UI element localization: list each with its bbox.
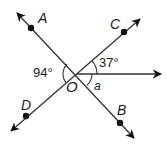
arc-angle-a [87, 74, 92, 85]
point-label-a: A [38, 11, 47, 25]
point-label-d: D [21, 98, 31, 112]
point-b-dot [117, 120, 123, 126]
angle-label-37: 37° [99, 56, 119, 69]
diagram-canvas [0, 0, 167, 147]
point-label-c: C [110, 17, 120, 31]
point-label-b: B [117, 103, 126, 117]
point-a-dot [28, 25, 34, 31]
arc-angle-37 [92, 61, 97, 74]
angle-label-94: 94° [33, 66, 53, 79]
point-c-dot [121, 29, 127, 35]
angle-label-a: a [94, 80, 101, 92]
center-label-o: O [66, 79, 78, 94]
angle-diagram: A C D B O 94° 37° a [0, 0, 167, 147]
point-d-dot [23, 113, 29, 119]
